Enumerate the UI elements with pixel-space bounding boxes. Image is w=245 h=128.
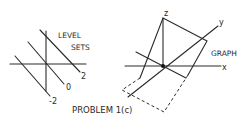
graph-plane-mid-line bbox=[136, 52, 186, 78]
level-sets-title-2: SETS bbox=[71, 43, 90, 52]
graph-y-label: y bbox=[219, 18, 224, 27]
graph-x-label: x bbox=[222, 63, 227, 72]
graph-diagram: z y x GRAPH bbox=[122, 9, 237, 112]
problem-figure: LEVEL SETS 2 0 -2 z y x GRAPH PROBLEM 1(… bbox=[0, 0, 245, 128]
graph-z-label: z bbox=[164, 9, 168, 18]
graph-origin-dot bbox=[161, 64, 165, 68]
graph-plane-upper bbox=[140, 18, 207, 78]
level-sets-title-1: LEVEL bbox=[58, 31, 82, 40]
problem-caption: PROBLEM 1(c) bbox=[72, 105, 132, 115]
graph-y-axis bbox=[128, 26, 218, 97]
level-label-neg2: -2 bbox=[49, 97, 57, 106]
level-label-0: 0 bbox=[66, 83, 71, 92]
graph-title: GRAPH bbox=[211, 49, 237, 58]
level-label-2: 2 bbox=[81, 72, 86, 81]
level-sets-diagram: LEVEL SETS 2 0 -2 bbox=[10, 30, 90, 106]
